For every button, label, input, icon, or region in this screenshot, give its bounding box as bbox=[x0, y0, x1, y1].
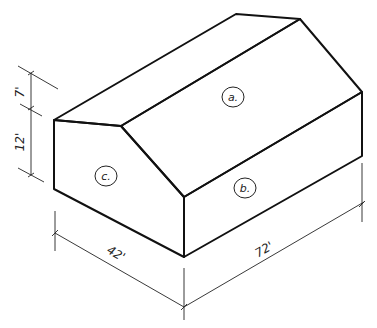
height-dimension: 7' 12' bbox=[13, 66, 58, 182]
gable-end-wall bbox=[54, 120, 184, 257]
wall-height-label: 12' bbox=[13, 133, 27, 152]
length-label: 72' bbox=[252, 239, 275, 260]
face-label-c: c. bbox=[95, 166, 117, 186]
svg-text:c.: c. bbox=[101, 170, 111, 183]
width-dimension: 42' bbox=[52, 211, 187, 320]
roof-plane-front bbox=[121, 19, 362, 197]
building bbox=[54, 14, 362, 257]
roof-plane-back bbox=[54, 14, 300, 126]
length-dimension: 72' bbox=[184, 163, 365, 307]
building-diagram: a. b. c. 7' 12' 42' 72' bbox=[0, 0, 377, 328]
face-label-b: b. bbox=[234, 178, 256, 198]
width-label: 42' bbox=[104, 243, 127, 264]
roof-rise-label: 7' bbox=[13, 87, 27, 98]
face-label-a: a. bbox=[222, 87, 244, 107]
side-wall bbox=[184, 92, 362, 257]
svg-text:b.: b. bbox=[240, 182, 250, 195]
svg-text:a.: a. bbox=[228, 91, 238, 104]
